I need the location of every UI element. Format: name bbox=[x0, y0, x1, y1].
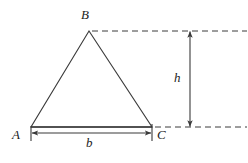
geometry-figure: B A C h b bbox=[0, 0, 248, 163]
triangle-outline bbox=[31, 31, 152, 127]
vertex-label-b: B bbox=[81, 8, 89, 21]
vertex-label-c: C bbox=[157, 128, 166, 141]
height-label: h bbox=[174, 71, 181, 84]
figure-canvas bbox=[0, 0, 248, 163]
vertex-label-a: A bbox=[12, 128, 20, 141]
triangle-abc bbox=[31, 31, 152, 127]
base-label: b bbox=[86, 136, 93, 149]
